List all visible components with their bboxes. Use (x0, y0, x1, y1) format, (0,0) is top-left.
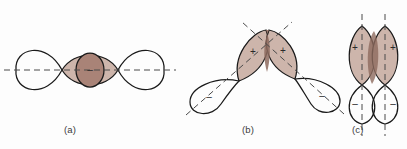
panel-a-center-sign: – (87, 64, 93, 75)
panel-c-sign-lower-right: – (390, 98, 396, 109)
panel-b-sign-upper-right: + (280, 45, 286, 56)
panel-c-group: + + – – (349, 14, 398, 136)
panel-b-group: + + – – (186, 22, 344, 115)
panel-b-axis-left (186, 22, 292, 115)
panel-b-sign-upper-left: + (250, 46, 256, 57)
panel-b-caption: (b) (242, 124, 254, 135)
panel-b-lobe-lower-left (190, 80, 239, 114)
panel-c-sign-lower-left: – (352, 98, 358, 109)
orbital-overlap-figure: – + + – – (0, 0, 407, 149)
panel-b-sign-lower-left: – (206, 91, 212, 102)
panel-a-group: – (4, 50, 176, 89)
panel-c-sign-upper-left: + (352, 42, 358, 53)
orbital-diagram-canvas: – + + – – (0, 0, 407, 149)
panel-c-sign-upper-right: + (390, 42, 396, 53)
panel-b-sign-lower-right: – (319, 90, 325, 101)
panel-b-lobe-lower-right (295, 79, 340, 113)
panel-c-caption: (c) (352, 124, 364, 135)
panel-a-caption: (a) (64, 124, 76, 135)
